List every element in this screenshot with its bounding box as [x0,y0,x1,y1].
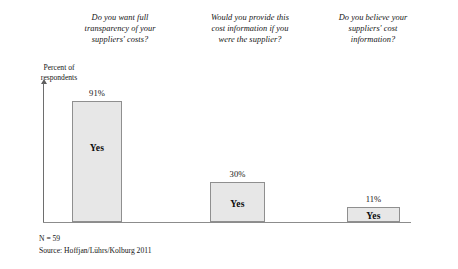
question-label-2-line-2: cost information if you [182,23,318,34]
bar-1: Yes [72,101,122,222]
question-label-1-line-1: Do you want full [52,12,188,23]
bar-value-label-2: 30% [210,169,265,179]
question-label-3: Do you believe your suppliers' cost info… [310,12,436,45]
y-axis-label-line-1: Percent of [20,63,98,73]
x-axis-baseline [43,222,411,223]
bar-1-inner-label: Yes [73,142,121,153]
bar-2: Yes [210,182,265,222]
bar-2-inner-label: Yes [211,198,264,209]
bar-3-inner-label: Yes [348,210,399,221]
question-label-2-line-3: were the supplier? [182,34,318,45]
y-axis-label: Percent of respondents [20,63,98,82]
source-note: Source: Hoffjan/Lührs/Kolburg 2011 [39,246,152,255]
question-label-1-line-2: transparency of your [52,23,188,34]
bar-value-label-3: 11% [347,194,400,204]
question-label-3-line-1: Do you believe your [310,12,436,23]
question-label-1-line-3: suppliers' costs? [52,34,188,45]
bar-value-label-1: 91% [72,88,122,98]
bar-chart: Do you want full transparency of your su… [0,0,458,269]
bar-3: Yes [347,207,400,222]
question-label-3-line-2: suppliers' cost [310,23,436,34]
question-label-3-line-3: information? [310,34,436,45]
question-label-2: Would you provide this cost information … [182,12,318,45]
sample-size-note: N = 59 [39,234,60,243]
question-label-2-line-1: Would you provide this [182,12,318,23]
question-label-1: Do you want full transparency of your su… [52,12,188,45]
y-axis-line [43,83,44,222]
y-axis-label-line-2: respondents [20,73,98,83]
